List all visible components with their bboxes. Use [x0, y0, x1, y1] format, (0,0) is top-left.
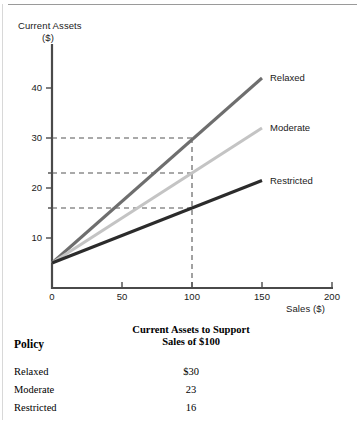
x-tick-label-150: 150: [247, 291, 277, 302]
table-header-value-line2: Sales of $100: [162, 336, 220, 347]
x-tick-label-0: 0: [37, 291, 67, 302]
figure-page: Current Assets ($) Sales ($) 10203040 05…: [0, 0, 357, 424]
annotation-dashed-lines: [52, 138, 192, 288]
y-tick-label-30: 30: [20, 132, 42, 143]
chart-canvas: [0, 0, 357, 320]
series-label-relaxed: Relaxed: [270, 72, 305, 83]
summary-table: Current Assets to Support Sales of $100 …: [0, 322, 357, 424]
table-row: Relaxed: [14, 366, 48, 377]
y-tick-label-20: 20: [20, 182, 42, 193]
series-line-relaxed: [52, 78, 262, 263]
x-tick-label-100: 100: [177, 291, 207, 302]
table-row-value: $30: [96, 366, 286, 377]
line-chart: Current Assets ($) Sales ($) 10203040 05…: [0, 0, 357, 320]
table-row: Moderate: [14, 384, 54, 395]
table-header-value: Current Assets to Support Sales of $100: [96, 324, 286, 348]
series-label-moderate: Moderate: [270, 122, 310, 133]
table-row-value: 23: [96, 384, 286, 395]
series-label-restricted: Restricted: [270, 175, 313, 186]
y-tick-label-40: 40: [20, 82, 42, 93]
series-lines: [52, 78, 262, 263]
x-axis-title: Sales ($): [286, 303, 325, 314]
series-line-moderate: [52, 128, 262, 263]
y-axis-title-line2: ($): [42, 32, 54, 43]
table-row-value: 16: [96, 402, 286, 413]
x-tick-label-50: 50: [107, 291, 137, 302]
y-tick-label-10: 10: [20, 232, 42, 243]
table-row: Restricted: [14, 402, 57, 413]
y-axis-title-line1: Current Assets: [18, 20, 82, 31]
table-header-policy: Policy: [14, 338, 44, 350]
series-line-restricted: [52, 181, 262, 264]
x-tick-label-200: 200: [317, 291, 347, 302]
table-header-value-line1: Current Assets to Support: [132, 324, 249, 335]
